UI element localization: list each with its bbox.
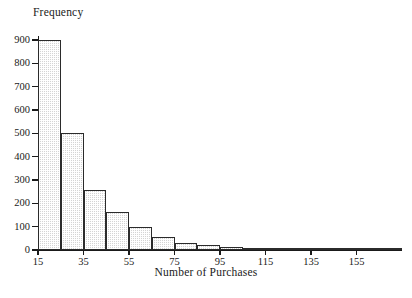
histogram-bar (38, 40, 61, 250)
y-tick-label-800: 800 (2, 58, 30, 68)
x-tick-55 (128, 250, 129, 255)
y-axis-title: Frequency (33, 6, 83, 18)
y-tick-label-700: 700 (2, 82, 30, 92)
histogram-bar (197, 245, 220, 250)
y-tick-label-600: 600 (2, 105, 30, 115)
y-tick-label-100: 100 (2, 222, 30, 232)
histogram-bar (288, 248, 311, 250)
x-tick-155 (356, 250, 357, 255)
histogram-bar (84, 190, 107, 250)
x-tick-15 (37, 250, 38, 255)
y-tick-label-300: 300 (2, 175, 30, 185)
histogram-bar (175, 243, 198, 250)
y-tick-label-200: 200 (2, 198, 30, 208)
y-tick-label-900: 900 (2, 35, 30, 45)
histogram-bar (152, 237, 175, 250)
x-tick-35 (83, 250, 84, 255)
histogram-bar (379, 248, 402, 250)
histogram-bar (220, 247, 243, 250)
histogram-bar (311, 248, 334, 250)
histogram-bar (106, 212, 129, 251)
y-tick-label-500: 500 (2, 128, 30, 138)
histogram-bar (129, 227, 152, 250)
y-tick-label-0: 0 (2, 245, 30, 255)
x-tick-95 (219, 250, 220, 255)
histogram-bar (357, 248, 380, 250)
x-tick-135 (310, 250, 311, 255)
histogram-bar (61, 133, 84, 250)
histogram-bar (334, 248, 357, 250)
histogram-figure: Frequency 0100200300400500600700800900 1… (0, 0, 412, 298)
histogram-bar (243, 248, 266, 250)
histogram-bar (266, 248, 289, 250)
y-tick-label-400: 400 (2, 152, 30, 162)
x-tick-75 (174, 250, 175, 255)
x-axis-title: Number of Purchases (0, 266, 412, 278)
x-tick-115 (265, 250, 266, 255)
